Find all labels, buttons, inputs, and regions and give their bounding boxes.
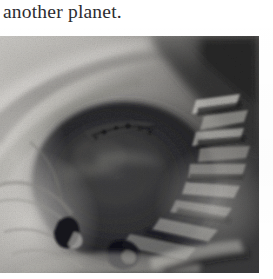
figure-photograph (0, 36, 259, 273)
planet-surface-photo (0, 36, 259, 273)
top-haze-band (0, 36, 200, 80)
body-text-line: another planet. (3, 0, 269, 27)
scanned-page: another planet. (0, 0, 273, 279)
